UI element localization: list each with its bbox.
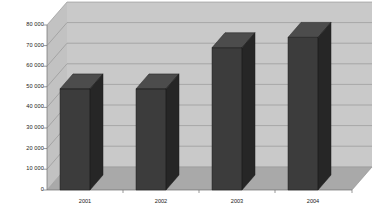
- y-tick-label: 30 000: [2, 125, 44, 131]
- x-tick-label-2003: 2003: [215, 199, 259, 205]
- y-tick-label: 70 000: [2, 43, 44, 49]
- bar-2004-side: [318, 22, 331, 190]
- bar-2002-front: [136, 89, 166, 190]
- bar-2002[interactable]: [136, 74, 179, 190]
- bar-2004-front: [288, 37, 318, 190]
- x-axis-ticks: [123, 190, 352, 193]
- x-tick-label-2002: 2002: [139, 199, 183, 205]
- bar-2001-side: [90, 74, 103, 190]
- bar-2001-front: [60, 89, 90, 190]
- bar-2003[interactable]: [212, 33, 255, 190]
- bar-2002-side: [166, 74, 179, 190]
- y-tick-label: 50 000: [2, 84, 44, 90]
- y-tick-label: 60 000: [2, 63, 44, 69]
- x-tick-label-2001: 2001: [63, 199, 107, 205]
- x-tick-label-2004: 2004: [291, 199, 335, 205]
- y-tick-label: 80 000: [2, 22, 44, 28]
- chart-plot-svg: [0, 0, 387, 217]
- chart-container: 80 000 70 000 60 000 50 000 40 000 30 00…: [0, 0, 387, 217]
- chart-3d-scene: 80 000 70 000 60 000 50 000 40 000 30 00…: [0, 0, 387, 217]
- y-axis-labels: 80 000 70 000 60 000 50 000 40 000 30 00…: [0, 0, 44, 217]
- bar-2004[interactable]: [288, 22, 331, 190]
- y-tick-label: 0: [2, 187, 44, 193]
- bar-2001[interactable]: [60, 74, 103, 190]
- y-tick-label: 10 000: [2, 166, 44, 172]
- bar-2003-side: [242, 33, 255, 190]
- y-tick-label: 40 000: [2, 104, 44, 110]
- y-tick-label: 20 000: [2, 146, 44, 152]
- bar-2003-front: [212, 48, 242, 190]
- y-axis-ticks: [44, 25, 48, 190]
